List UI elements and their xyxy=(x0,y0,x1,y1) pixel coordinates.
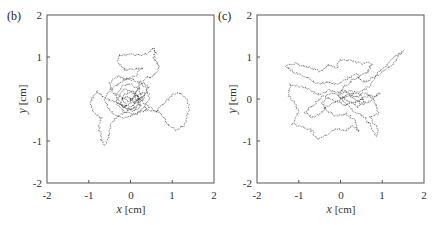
trajectory-trace xyxy=(285,51,403,140)
y-tick-label: -1 xyxy=(243,135,252,147)
x-tick-label: -2 xyxy=(252,189,261,201)
y-tick-label: -1 xyxy=(33,135,42,147)
x-tick-label: 1 xyxy=(379,189,385,201)
y-tick-label: 1 xyxy=(247,51,253,63)
y-tick-label: 0 xyxy=(247,93,253,105)
plot-area xyxy=(210,0,438,225)
trajectory-trace xyxy=(90,48,190,145)
x-tick-label: -1 xyxy=(84,189,93,201)
x-tick-label: -2 xyxy=(42,189,51,201)
y-tick-label: 0 xyxy=(37,93,43,105)
x-tick-label: 0 xyxy=(128,189,134,201)
y-axis-label: y [cm] xyxy=(225,85,240,114)
y-tick-label: -2 xyxy=(33,177,42,189)
y-tick-label: 2 xyxy=(37,9,43,21)
x-tick-label: 2 xyxy=(421,189,427,201)
y-tick-label: -2 xyxy=(243,177,252,189)
panel-c: (c) 2 1 0 -1 -2 -2 -1 0 1 2 x [cm] y [cm… xyxy=(210,0,429,225)
x-tick-label: 0 xyxy=(338,189,344,201)
panel-b: (b) 2 1 0 -1 -2 -2 -1 0 1 2 x [cm] y [cm… xyxy=(0,0,219,225)
x-tick-label: 1 xyxy=(169,189,175,201)
y-axis-label: y [cm] xyxy=(15,85,30,114)
plot-area xyxy=(0,0,219,225)
x-tick-label: -1 xyxy=(294,189,303,201)
y-tick-label: 1 xyxy=(37,51,43,63)
x-axis-label: x [cm] xyxy=(117,202,146,217)
x-axis-label: x [cm] xyxy=(327,202,356,217)
y-tick-label: 2 xyxy=(247,9,253,21)
